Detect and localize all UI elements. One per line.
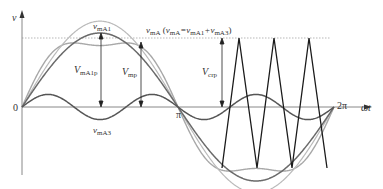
vmA-sum-label: vmA (vmA=vmA1+vmA3) — [146, 26, 231, 37]
y-axis-label: v — [12, 13, 16, 23]
vmA-eq-plus: +v — [204, 25, 214, 35]
tick-pi-label: π — [176, 110, 181, 120]
vmA-label-sub: mA — [150, 29, 161, 37]
Vmp-sub: mp — [128, 71, 137, 79]
vmA-eq-sub2: mA1 — [190, 29, 204, 37]
vmA-eq-close: ) — [228, 25, 231, 35]
VmA1p-label: VmA1p — [74, 65, 98, 77]
Vcrp-label: Vcrp — [202, 67, 217, 79]
VmA1p-sub: mA1p — [80, 69, 98, 77]
vmA-eq-mid: =v — [180, 25, 190, 35]
Vcrp-sub: crp — [208, 71, 217, 79]
vmA3-label-sub: mA3 — [97, 129, 111, 137]
y-axis-arrow-icon — [20, 10, 25, 18]
vmA-eq-sub3: mA3 — [214, 29, 228, 37]
vmA1-label-sub: mA1 — [97, 25, 111, 33]
vmA1-label: vmA1 — [93, 22, 111, 33]
tick-2pi-label: 2π — [337, 101, 347, 111]
VmA1p-dimension-arrow — [99, 33, 103, 107]
x-axis-label: ωt — [361, 103, 371, 113]
vmA3-label: vmA3 — [93, 126, 111, 137]
origin-label: 0 — [13, 103, 18, 113]
vmA-eq-sub1: mA — [170, 29, 181, 37]
Vmp-label: Vmp — [122, 67, 137, 79]
Vcrp-dimension-arrow — [220, 38, 224, 107]
triangle-carrier-wave — [222, 38, 327, 168]
